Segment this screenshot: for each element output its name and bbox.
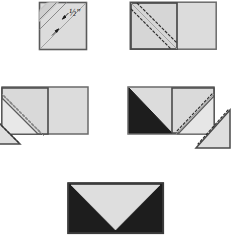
step-4-right-square-added xyxy=(126,84,234,160)
diagram-sheet: ½" xyxy=(0,0,235,250)
step-2-square-on-rectangle xyxy=(129,1,219,55)
step-1-marked-square: ½" xyxy=(38,1,90,55)
step-3-left-corner-folded-out xyxy=(0,84,98,158)
step-5-finished-block xyxy=(67,182,167,238)
measurement-label: ½" xyxy=(69,8,81,18)
